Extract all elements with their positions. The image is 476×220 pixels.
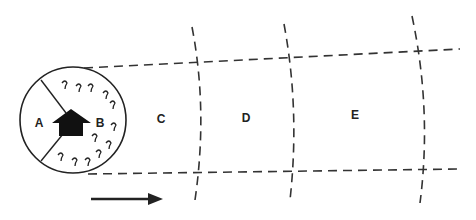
flow-direction-arrow-icon [91,193,163,205]
label-b: B [96,116,105,130]
label-c: C [157,112,166,126]
plume-boundaries [84,49,460,174]
house-arrow-icon [52,109,91,136]
label-d: D [242,111,251,125]
label-a: A [35,116,44,130]
diagram-canvas [0,0,476,220]
zone-arcs [192,16,425,203]
label-e: E [351,108,359,122]
